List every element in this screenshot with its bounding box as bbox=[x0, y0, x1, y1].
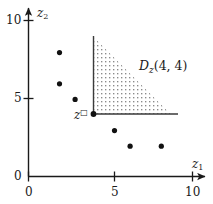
data-point bbox=[73, 97, 78, 102]
data-point bbox=[159, 144, 164, 149]
x-axis-title: z1 bbox=[192, 158, 203, 172]
data-point bbox=[128, 144, 133, 149]
x-tick-label-5: 5 bbox=[111, 186, 119, 198]
region-label-args: (4, 4) bbox=[154, 58, 188, 73]
data-point bbox=[57, 50, 62, 55]
scatter-plot-figure: 10 5 0 0 5 10 z2 z1 Dz(4, 4) z□ bbox=[0, 0, 213, 204]
y-tick-label-0: 0 bbox=[14, 170, 22, 182]
y-axis-title: z2 bbox=[37, 7, 48, 21]
reference-point-label: z□ bbox=[74, 109, 88, 121]
y-tick-label-5: 5 bbox=[14, 92, 22, 104]
data-point bbox=[112, 128, 117, 133]
reference-point-z-box bbox=[91, 111, 97, 117]
dominance-region-Dz bbox=[94, 36, 179, 114]
point-label-superscript: □ bbox=[80, 108, 88, 117]
data-point bbox=[57, 81, 62, 86]
y-tick-label-10: 10 bbox=[6, 14, 21, 26]
x-tick-label-10: 10 bbox=[185, 186, 200, 198]
x-tick-label-0: 0 bbox=[25, 186, 33, 198]
y-axis-title-subscript: 2 bbox=[43, 12, 48, 21]
x-axis-title-subscript: 1 bbox=[198, 163, 203, 172]
plot-canvas bbox=[0, 0, 213, 204]
dominance-region-label: Dz(4, 4) bbox=[139, 60, 187, 75]
y-axis bbox=[24, 8, 34, 177]
region-label-letter: D bbox=[139, 58, 149, 73]
x-axis bbox=[29, 172, 206, 182]
